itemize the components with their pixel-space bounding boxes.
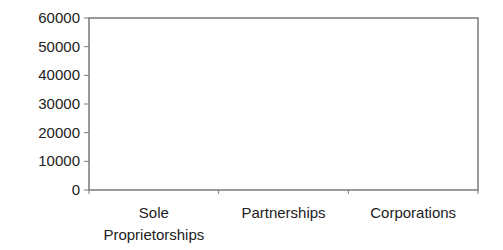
y-tick-label: 30000 (38, 95, 80, 112)
y-axis: 0100002000030000400005000060000 (38, 9, 89, 198)
y-tick-label: 40000 (38, 66, 80, 83)
y-tick-label: 10000 (38, 152, 80, 169)
y-tick-label: 0 (72, 181, 80, 198)
plot-area (89, 18, 478, 190)
x-category-label: Corporations (370, 204, 456, 221)
plot-border (89, 18, 478, 190)
bar-chart: 0100002000030000400005000060000 SoleProp… (0, 0, 503, 250)
y-tick-label: 50000 (38, 38, 80, 55)
y-tick-label: 60000 (38, 9, 80, 26)
y-tick-label: 20000 (38, 124, 80, 141)
x-axis: SoleProprietorshipsPartnershipsCorporati… (89, 190, 478, 243)
x-category-label: Proprietorships (103, 226, 204, 243)
x-category-label: Sole (139, 204, 169, 221)
x-category-label: Partnerships (241, 204, 325, 221)
